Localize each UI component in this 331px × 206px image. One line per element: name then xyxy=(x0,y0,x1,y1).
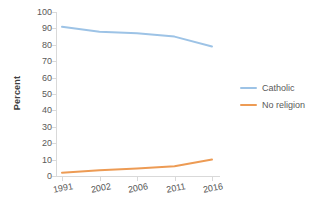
legend-label: No religion xyxy=(262,100,305,110)
legend-item-catholic[interactable]: Catholic xyxy=(240,80,331,96)
legend-label: Catholic xyxy=(262,83,295,93)
series-line-catholic xyxy=(62,27,212,47)
legend-item-no-religion[interactable]: No religion xyxy=(240,97,331,113)
line-chart: Percent 1009080706050403020100 199120022… xyxy=(0,0,331,206)
series-line-no-religion xyxy=(62,160,212,173)
legend-swatch-icon xyxy=(240,104,257,106)
chart-legend: CatholicNo religion xyxy=(240,80,331,114)
legend-swatch-icon xyxy=(240,87,257,89)
